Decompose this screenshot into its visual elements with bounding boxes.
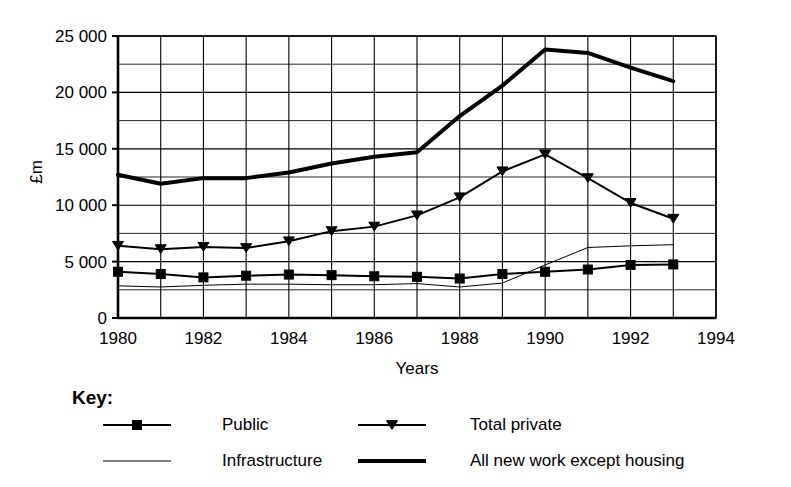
y-tick-label: 25 000: [55, 27, 107, 46]
y-tick-label: 0: [98, 309, 107, 328]
chart-figure: 05 00010 00015 00020 00025 000 198019821…: [0, 0, 791, 487]
x-tick-label: 1982: [185, 329, 223, 348]
x-tick-label: 1984: [270, 329, 308, 348]
x-tick-label: 1992: [612, 329, 650, 348]
marker-square: [455, 274, 464, 283]
marker-square: [626, 260, 635, 269]
legend-title: Key:: [72, 387, 113, 408]
y-axis-title: £m: [27, 160, 46, 184]
marker-square: [370, 272, 379, 281]
y-tick-label: 5 000: [64, 253, 107, 272]
marker-square: [583, 265, 592, 274]
x-tick-label: 1986: [355, 329, 393, 348]
line-chart: 05 00010 00015 00020 00025 000 198019821…: [0, 0, 791, 487]
marker-square: [327, 271, 336, 280]
x-tick-label: 1988: [441, 329, 479, 348]
marker-square: [114, 267, 123, 276]
marker-square: [498, 270, 507, 279]
x-axis-title: Years: [396, 359, 439, 378]
legend-label: Infrastructure: [222, 451, 322, 470]
y-tick-label: 15 000: [55, 140, 107, 159]
marker-square: [669, 260, 678, 269]
x-tick-label: 1990: [526, 329, 564, 348]
marker-square: [156, 270, 165, 279]
legend-label: Total private: [470, 415, 562, 434]
x-tick-label: 1980: [99, 329, 137, 348]
y-tick-label: 10 000: [55, 196, 107, 215]
marker-square: [199, 273, 208, 282]
legend-label: Public: [222, 415, 269, 434]
marker-square: [413, 272, 422, 281]
marker-square: [242, 271, 251, 280]
marker-square: [541, 267, 550, 276]
marker-square: [133, 421, 142, 430]
legend-label: All new work except housing: [470, 451, 685, 470]
x-tick-label: 1994: [697, 329, 735, 348]
y-tick-label: 20 000: [55, 83, 107, 102]
marker-square: [284, 270, 293, 279]
